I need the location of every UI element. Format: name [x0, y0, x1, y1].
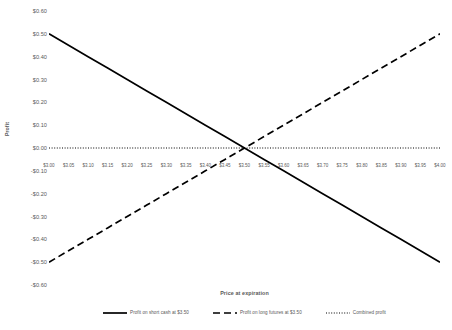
legend-entry[interactable]: Profit on short cash at $3.50: [103, 308, 189, 318]
legend-label: Combined profit: [353, 310, 386, 316]
y-tick-label: -$0.40: [7, 236, 47, 242]
x-axis-title: Price at expiration: [49, 290, 440, 296]
chart-legend: Profit on short cash at $3.50Profit on l…: [49, 307, 440, 319]
y-tick-label: $0.20: [7, 99, 47, 105]
legend-swatch-solid: [103, 310, 127, 316]
profit-at-expiration-chart: Profit $0.60$0.50$0.40$0.30$0.20$0.10$0.…: [0, 0, 452, 330]
y-tick-label: -$0.30: [7, 214, 47, 220]
legend-entry[interactable]: Profit on long futures at $3.50: [213, 308, 302, 318]
legend-entry[interactable]: Combined profit: [326, 308, 386, 318]
legend-label: Profit on long futures at $3.50: [240, 310, 302, 316]
plot-svg: [49, 11, 440, 285]
y-tick-label: -$0.20: [7, 191, 47, 197]
legend-swatch-dotted: [326, 310, 350, 316]
legend-swatch-dashed: [213, 310, 237, 316]
plot-area: [49, 11, 440, 285]
y-tick-label: $0.40: [7, 54, 47, 60]
y-tick-label: $0.60: [7, 8, 47, 14]
y-tick-label: $0.30: [7, 77, 47, 83]
y-tick-label: -$0.60: [7, 282, 47, 288]
y-tick-label: $0.50: [7, 31, 47, 37]
y-tick-label: $0.10: [7, 122, 47, 128]
x-tick-label: $4.00: [426, 162, 452, 169]
legend-label: Profit on short cash at $3.50: [130, 310, 189, 316]
y-tick-label: -$0.50: [7, 259, 47, 265]
y-tick-label: $0.00: [7, 145, 47, 151]
x-axis-tick-labels: $3.00$3.05$3.10$3.15$3.20$3.25$3.30$3.35…: [49, 162, 440, 172]
